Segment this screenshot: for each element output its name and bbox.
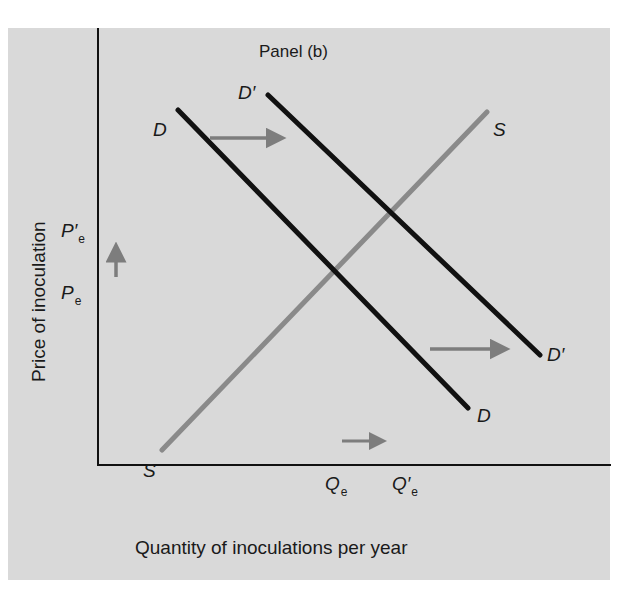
supply-demand-plot [0,0,628,601]
label-s-bottom: S [143,460,156,482]
supply-curve [162,112,487,450]
label-s-top: S [493,119,506,141]
tick-p-e: Pe [61,282,80,304]
y-axis-label: Price of inoculation [28,221,50,382]
label-d-bottom: D [477,405,491,427]
demand-curve [178,110,468,408]
tick-p-prime-e: P′e [61,220,84,242]
tick-q-e: Qe [325,473,346,495]
label-dprime-top: D′ [238,82,255,104]
label-dprime-bottom: D′ [547,344,564,366]
x-axis-label: Quantity of inoculations per year [135,537,408,559]
panel-title: Panel (b) [259,42,328,62]
label-d-top: D [153,119,167,141]
tick-q-prime-e: Q′e [392,473,417,495]
